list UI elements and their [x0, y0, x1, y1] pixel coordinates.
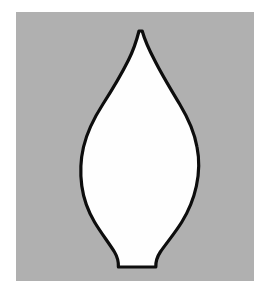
leaf-figure-svg: Leaf silhouette Pointed ovate leaf outli… — [0, 0, 267, 293]
figure-canvas: Leaf silhouette Pointed ovate leaf outli… — [0, 0, 267, 293]
